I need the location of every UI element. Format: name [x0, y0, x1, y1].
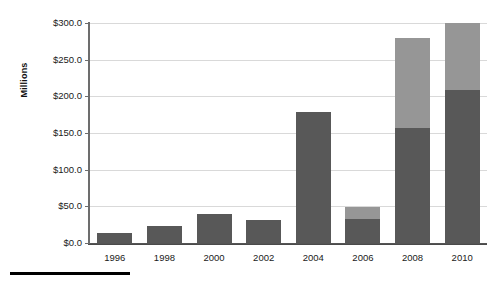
bar-segment-lower[interactable]: [147, 226, 182, 243]
bar-2000[interactable]: [197, 214, 232, 243]
bar-chart: Millions $0.0$50.0$100.0$150.0$200.0$250…: [0, 0, 491, 285]
x-axis-label-1996: 1996: [90, 252, 140, 263]
gridline: [90, 243, 487, 244]
x-axis-label-2000: 2000: [189, 252, 239, 263]
footer-rule: [10, 272, 130, 275]
y-axis-tick-label: $150.0: [22, 127, 82, 138]
plot-area: [90, 23, 487, 243]
y-axis-title: Millions: [19, 35, 37, 125]
y-axis-tick-label: $250.0: [22, 54, 82, 65]
y-axis-tick-label: $0.0: [22, 237, 82, 248]
bar-2004[interactable]: [296, 112, 331, 243]
bar-segment-lower[interactable]: [445, 90, 480, 243]
y-axis-tick-label: $200.0: [22, 90, 82, 101]
bar-segment-lower[interactable]: [246, 220, 281, 243]
bar-segment-upper[interactable]: [445, 23, 480, 90]
x-axis-label-2002: 2002: [239, 252, 289, 263]
bar-segment-lower[interactable]: [296, 112, 331, 243]
bar-2008[interactable]: [395, 38, 430, 243]
x-axis-label-2010: 2010: [437, 252, 487, 263]
bar-segment-lower[interactable]: [197, 214, 232, 243]
bar-2006[interactable]: [345, 207, 380, 243]
x-axis-label-2008: 2008: [388, 252, 438, 263]
y-axis-tick-label: $50.0: [22, 200, 82, 211]
bar-2010[interactable]: [445, 23, 480, 243]
bar-segment-lower[interactable]: [345, 219, 380, 243]
bar-segment-upper[interactable]: [395, 38, 430, 128]
bar-segment-lower[interactable]: [97, 233, 132, 243]
x-axis-label-2004: 2004: [289, 252, 339, 263]
bar-1998[interactable]: [147, 226, 182, 243]
x-axis-label-1998: 1998: [140, 252, 190, 263]
y-axis-tick-label: $100.0: [22, 164, 82, 175]
bar-2002[interactable]: [246, 220, 281, 243]
bar-segment-upper[interactable]: [345, 207, 380, 219]
y-axis-tick-label: $300.0: [22, 17, 82, 28]
bar-1996[interactable]: [97, 233, 132, 243]
bar-segment-lower[interactable]: [395, 128, 430, 243]
x-axis-label-2006: 2006: [338, 252, 388, 263]
